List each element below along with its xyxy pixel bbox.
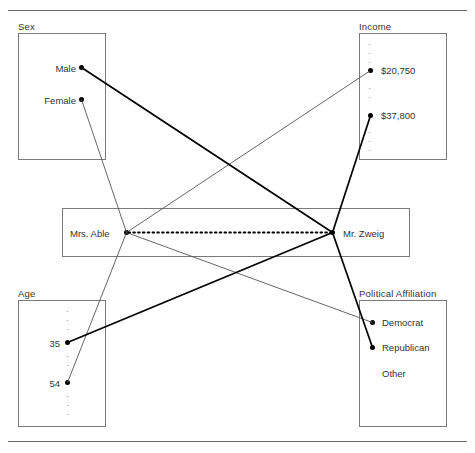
income-ellipsis-below: · · · xyxy=(368,128,371,155)
income-box xyxy=(359,33,447,160)
entry-age-35-label: 35 xyxy=(18,339,60,349)
diagram-canvas: Sex Male Female Income · · · $20,750 · ·… xyxy=(0,0,475,453)
entry-female-label: Female xyxy=(18,96,76,106)
income-ellipsis-above-dot-3: · xyxy=(368,58,371,67)
node-dot-age-54[interactable] xyxy=(65,380,70,385)
node-dot-mrs-able[interactable] xyxy=(124,230,129,235)
income-ellipsis-above: · · · xyxy=(368,40,371,67)
node-dot-female[interactable] xyxy=(79,97,84,102)
age-box xyxy=(18,300,106,427)
income-ellipsis-between-dot-2: · xyxy=(368,93,371,102)
entry-democrat-label: Democrat xyxy=(382,318,423,328)
node-dot-age-35[interactable] xyxy=(65,340,70,345)
entry-republican-label: Republican xyxy=(382,343,430,353)
age-ellipsis-between: · · xyxy=(66,352,69,370)
age-ellipsis-below-dot-3: · xyxy=(66,410,69,419)
entry-age-54-label: 54 xyxy=(18,379,60,389)
age-ellipsis-between-dot-2: · xyxy=(66,361,69,370)
bottom-divider-rule xyxy=(8,441,467,442)
age-box-title: Age xyxy=(18,288,36,299)
political-affiliation-box-title: Political Affiliation xyxy=(359,288,436,299)
age-ellipsis-above-dot-3: · xyxy=(66,325,69,334)
entry-male-label: Male xyxy=(18,64,76,74)
node-dot-income-20750[interactable] xyxy=(368,68,373,73)
entry-income-37800-label: $37,800 xyxy=(381,111,415,121)
age-ellipsis-above: · · · xyxy=(66,307,69,334)
top-divider-rule xyxy=(8,10,467,11)
entry-income-20750-label: $20,750 xyxy=(381,66,415,76)
node-dot-mr-zweig[interactable] xyxy=(330,230,335,235)
age-ellipsis-below: · · · xyxy=(66,392,69,419)
sex-box-title: Sex xyxy=(18,21,35,32)
income-ellipsis-between: · · xyxy=(368,84,371,102)
entity-label-mrs-able: Mrs. Able xyxy=(70,228,110,239)
node-dot-income-37800[interactable] xyxy=(368,113,373,118)
entry-other-label: Other xyxy=(382,369,406,379)
node-dot-republican[interactable] xyxy=(370,345,375,350)
income-ellipsis-below-dot-3: · xyxy=(368,146,371,155)
entity-label-mr-zweig: Mr. Zweig xyxy=(343,228,384,239)
income-box-title: Income xyxy=(359,21,391,32)
node-dot-male[interactable] xyxy=(79,65,84,70)
node-dot-democrat[interactable] xyxy=(370,320,375,325)
